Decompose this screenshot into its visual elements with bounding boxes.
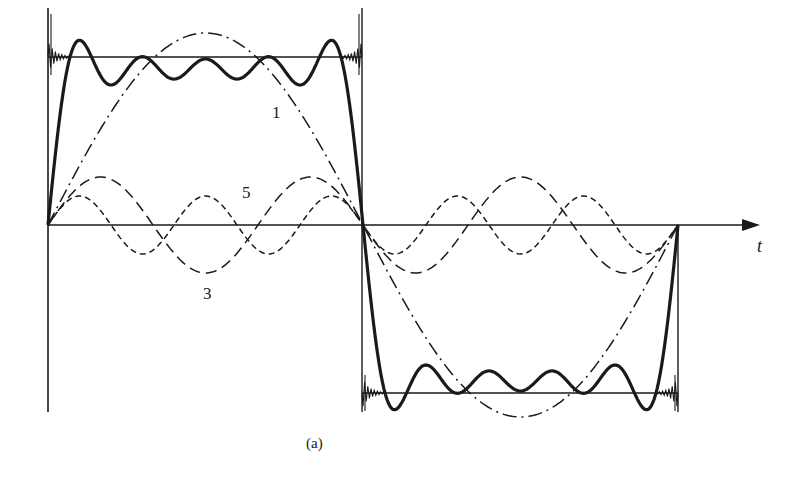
label-fundamental: 1	[272, 104, 281, 121]
axes	[48, 8, 760, 412]
figure-caption: (a)	[306, 436, 323, 451]
time-axis-arrowhead	[742, 219, 760, 231]
fourier-square-wave-diagram	[0, 0, 800, 480]
label-fifth-harmonic: 5	[242, 184, 251, 201]
label-third-harmonic: 3	[203, 285, 212, 302]
axis-label-t: t	[757, 237, 762, 255]
